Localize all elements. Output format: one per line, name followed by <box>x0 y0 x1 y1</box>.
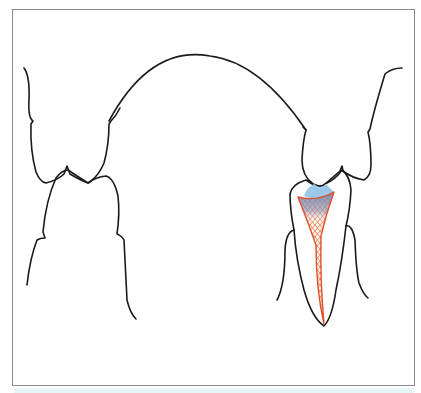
upper-arch <box>109 55 306 130</box>
teeth-diagram <box>0 0 421 393</box>
lower-left-tooth <box>27 170 136 319</box>
upper-right-tooth <box>302 68 402 186</box>
upper-left-tooth <box>24 68 120 183</box>
